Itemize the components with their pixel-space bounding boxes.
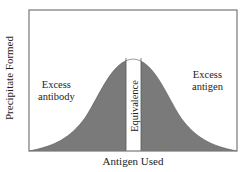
excess-antibody-label: Excess antibody [38,79,75,103]
excess-antigen-label: Excess antigen [192,69,223,93]
equivalence-label: Equivalence [127,62,140,150]
equivalence-text: Equivalence [128,80,139,132]
excess-antibody-line1: Excess [38,79,75,91]
y-axis-label: Precipitate Formed [3,18,17,138]
excess-antibody-line2: antibody [38,91,75,103]
x-axis-label: Antigen Used [29,155,237,167]
excess-antigen-line2: antigen [192,81,223,93]
excess-antigen-line1: Excess [192,69,223,81]
precipitin-curve-diagram: Precipitate Formed Antigen Used Excess a… [0,0,250,172]
